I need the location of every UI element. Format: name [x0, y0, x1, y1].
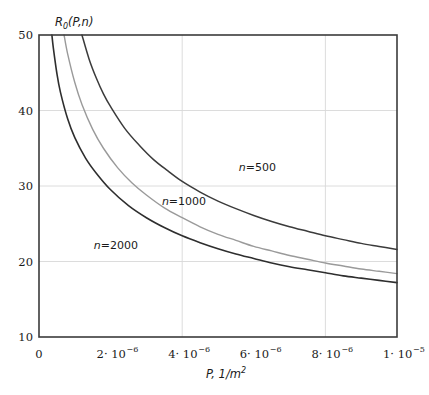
- y-axis-title: R0(P,n): [55, 15, 93, 31]
- curve-label-2000: n=2000: [94, 239, 138, 252]
- y-tick-label: 40: [18, 104, 33, 118]
- x-axis-tick-labels: 02· 10−64· 10−66· 10−68· 10−61· 10−5: [35, 345, 424, 361]
- x-tick-exponent: −6: [341, 345, 353, 354]
- x-tick-exponent: −6: [270, 345, 282, 354]
- x-tick-label: 1· 10−5: [383, 345, 425, 361]
- x-tick-label: 4· 10−6: [168, 345, 210, 361]
- x-tick-label: 6· 10−6: [240, 345, 282, 361]
- y-tick-label: 10: [18, 330, 33, 344]
- x-tick-label: 2· 10−6: [97, 345, 139, 361]
- x-tick-exponent: −5: [413, 345, 425, 354]
- x-tick-text: 6· 10: [240, 347, 269, 361]
- gridlines: [39, 35, 397, 337]
- x-tick-exponent: −6: [198, 345, 210, 354]
- x-tick-text: 4· 10: [168, 347, 197, 361]
- y-tick-label: 20: [18, 255, 33, 269]
- y-tick-label: 50: [18, 28, 33, 42]
- x-tick-text: 1· 10: [383, 347, 412, 361]
- chart-figure: 1020304050 02· 10−64· 10−66· 10−68· 10−6…: [0, 0, 429, 395]
- curve-1000: [64, 35, 397, 274]
- r0-vs-p-line-chart: 1020304050 02· 10−64· 10−66· 10−68· 10−6…: [0, 0, 429, 395]
- x-tick-label: 8· 10−6: [311, 345, 353, 361]
- y-tick-label: 30: [18, 179, 33, 193]
- curve-label-500: n=500: [239, 161, 276, 174]
- x-tick-exponent: −6: [127, 345, 139, 354]
- y-axis-tick-labels: 1020304050: [18, 28, 33, 344]
- x-tick-text: 0: [35, 347, 42, 361]
- x-tick-text: 8· 10: [311, 347, 340, 361]
- curve-label-1000: n=1000: [162, 195, 206, 208]
- x-axis-title: P, 1/m2: [206, 366, 246, 381]
- x-tick-label: 0: [35, 347, 42, 361]
- curve-annotations: n=500n=1000n=2000: [94, 161, 276, 253]
- x-tick-text: 2· 10: [97, 347, 126, 361]
- curve-500: [82, 35, 397, 249]
